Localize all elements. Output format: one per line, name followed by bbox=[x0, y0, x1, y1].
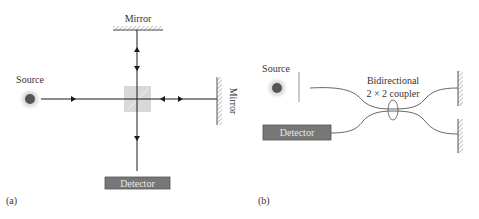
coupler-label-line2: 2 × 2 coupler bbox=[366, 88, 420, 99]
fiber-lower bbox=[331, 111, 458, 134]
top-mirror bbox=[113, 26, 163, 31]
source-label: Source bbox=[16, 74, 44, 85]
coupler-icon bbox=[388, 100, 398, 120]
arrow-icon bbox=[134, 66, 140, 71]
detector-label: Detector bbox=[280, 127, 315, 138]
panel-a-michelson: Mirror Mirror Source Detector (a) bbox=[6, 13, 239, 207]
fiber-mirror-upper bbox=[458, 71, 463, 106]
panel-b-fiber-interferometer: Source Bidirectional 2 × 2 coupler Detec… bbox=[258, 63, 463, 207]
right-mirror-label: Mirror bbox=[228, 88, 239, 115]
source-icon bbox=[25, 94, 35, 104]
fiber-mirror-lower bbox=[458, 119, 463, 153]
arrow-icon bbox=[71, 96, 76, 102]
arrow-icon bbox=[160, 96, 165, 102]
top-mirror-label: Mirror bbox=[125, 13, 152, 24]
panel-a-label: (a) bbox=[6, 195, 17, 207]
arrow-icon bbox=[134, 136, 140, 141]
arrow-icon bbox=[134, 47, 140, 52]
detector-label: Detector bbox=[120, 178, 155, 189]
panel-b-label: (b) bbox=[258, 195, 270, 207]
arrow-icon bbox=[178, 96, 183, 102]
source-label: Source bbox=[262, 63, 290, 74]
coupler-label-line1: Bidirectional bbox=[367, 75, 419, 86]
right-mirror bbox=[217, 77, 222, 125]
source-icon bbox=[272, 83, 282, 93]
